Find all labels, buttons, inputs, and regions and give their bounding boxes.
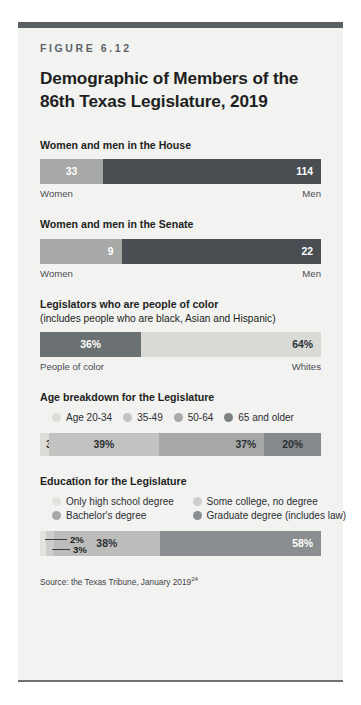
bar-value-50-64: 37%: [235, 439, 264, 450]
stacked-bar-senate: 9 22: [40, 239, 321, 264]
legend-education: Only high school degree Some college, no…: [40, 496, 333, 524]
axis-label-left: Women: [40, 268, 73, 279]
axis-label-right: Whites: [292, 361, 321, 372]
bar-segment-50-64: 37%: [159, 433, 264, 456]
stacked-bar-house: 33 114: [40, 159, 321, 184]
axis-label-right: Men: [302, 268, 321, 279]
axis-label-left: People of color: [40, 361, 104, 372]
bar-value-age-20-34: 3%: [40, 439, 49, 450]
legend-label: Only high school degree: [66, 496, 174, 507]
figure-card: FIGURE 6.12 Demographic of Members of th…: [18, 22, 343, 682]
legend-item: Only high school degree: [52, 496, 193, 507]
section-title: Women and men in the House: [40, 139, 321, 153]
bar-segment-graduate-degree: 58%: [160, 531, 321, 556]
legend-label: Graduate degree (includes law): [207, 510, 347, 521]
legend-item: Some college, no degree: [193, 496, 334, 507]
legend-label: Age 20-34: [66, 412, 112, 423]
section-senate: Women and men in the Senate 9 22 Women M…: [40, 218, 321, 279]
legend-label: 35-49: [137, 412, 163, 423]
legend-dot-bachelors-degree: [52, 511, 61, 520]
source-note: Source: the Texas Tribune, January 20192…: [40, 575, 321, 587]
legend-dot-65-and-older: [224, 413, 233, 422]
legend-dot-50-64: [174, 413, 183, 422]
legend-item: Bachelor's degree: [52, 510, 193, 521]
legend-dot-some-college-no-degree: [193, 497, 202, 506]
bar-segment-men: 22: [122, 239, 321, 264]
bar-value-bachelors-degree: 38%: [96, 538, 117, 549]
figure-label: FIGURE 6.12: [40, 42, 321, 54]
bar-segment-men: 114: [103, 159, 321, 184]
bar-segment-65-and-older: 20%: [264, 433, 321, 456]
top-rule: [18, 22, 343, 28]
legend-item: Graduate degree (includes law): [193, 510, 334, 521]
section-title: Women and men in the Senate: [40, 218, 321, 232]
bar-value-65-and-older: 20%: [282, 439, 303, 450]
bar-axis-house: Women Men: [40, 188, 321, 199]
bar-segment-35-49: 39%: [49, 433, 160, 456]
section-age-breakdown: Age breakdown for the Legislature Age 20…: [40, 391, 321, 456]
section-title: Education for the Legislature: [40, 475, 321, 489]
legend-label: Some college, no degree: [207, 496, 318, 507]
section-title: Age breakdown for the Legislature: [40, 391, 321, 405]
legend-dot-age-20-34: [52, 413, 61, 422]
legend-item: 35-49: [123, 412, 163, 423]
bar-value-men: 22: [301, 246, 321, 257]
bar-segment-age-20-34: 3%: [40, 433, 49, 456]
bar-axis-senate: Women Men: [40, 268, 321, 279]
bar-segment-people-of-color: 36%: [40, 332, 141, 357]
section-title-main: Legislators who are people of color: [40, 298, 218, 310]
bottom-rule: [18, 680, 343, 682]
legend-label: Bachelor's degree: [66, 510, 146, 521]
source-text: Source: the Texas Tribune, January 2019: [40, 576, 191, 586]
stacked-bar-education: 38% 58% 2% 3%: [40, 531, 321, 556]
legend-item: 50-64: [174, 412, 214, 423]
bar-value-graduate-degree: 58%: [292, 538, 321, 549]
bar-segment-some-college-no-degree: [46, 531, 54, 556]
bar-axis-people-of-color: People of color Whites: [40, 361, 321, 372]
legend-dot-graduate-degree: [193, 511, 202, 520]
bar-segment-bachelors-degree: 38%: [54, 531, 160, 556]
legend-item: 65 and older: [224, 412, 294, 423]
bar-value-35-49: 39%: [93, 439, 114, 450]
axis-label-left: Women: [40, 188, 73, 199]
bar-value-women: 9: [108, 246, 122, 257]
legend-item: Age 20-34: [52, 412, 112, 423]
bar-segment-women: 33: [40, 159, 103, 184]
bar-segment-women: 9: [40, 239, 122, 264]
legend-dot-35-49: [123, 413, 132, 422]
section-house: Women and men in the House 33 114 Women …: [40, 139, 321, 200]
section-subtitle: (includes people who are black, Asian an…: [40, 312, 321, 325]
bar-value-women: 33: [66, 166, 78, 177]
axis-label-right: Men: [302, 188, 321, 199]
stacked-bar-people-of-color: 36% 64%: [40, 332, 321, 357]
legend-dot-only-high-school-degree: [52, 497, 61, 506]
bar-segment-whites: 64%: [141, 332, 321, 357]
figure-title: Demographic of Members of the 86th Texas…: [40, 67, 321, 113]
stacked-bar-age: 3% 39% 37% 20%: [40, 433, 321, 456]
legend-label: 65 and older: [238, 412, 294, 423]
bar-value-men: 114: [296, 166, 321, 177]
section-people-of-color: Legislators who are people of color (inc…: [40, 298, 321, 373]
legend-label: 50-64: [188, 412, 214, 423]
section-education: Education for the Legislature Only high …: [40, 475, 321, 556]
source-footnote-marker: 24: [191, 575, 198, 582]
section-title: Legislators who are people of color (inc…: [40, 298, 321, 326]
legend-age: Age 20-34 35-49 50-64 65 and older: [40, 412, 333, 426]
bar-value-people-of-color: 36%: [80, 339, 101, 350]
bar-value-whites: 64%: [292, 339, 321, 350]
